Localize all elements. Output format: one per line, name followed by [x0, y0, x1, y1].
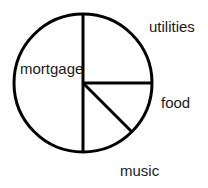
pie-label-mortgage: mortgage	[20, 61, 83, 76]
pie-chart-figure: utilities mortgage food music	[0, 0, 208, 188]
pie-label-food: food	[161, 95, 190, 110]
pie-label-utilities: utilities	[149, 19, 195, 34]
pie-label-music: music	[120, 163, 159, 178]
